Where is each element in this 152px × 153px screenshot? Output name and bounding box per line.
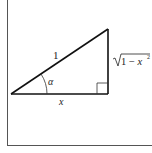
adjacent-label: x bbox=[58, 96, 64, 107]
opposite-exponent: 2 bbox=[147, 54, 150, 60]
opposite-radicand: 1 − x bbox=[121, 56, 142, 67]
triangle-diagram: 1 α x 1 − x 2 bbox=[0, 0, 152, 153]
angle-arc bbox=[41, 74, 47, 94]
angle-label: α bbox=[48, 76, 54, 87]
hypotenuse-label: 1 bbox=[53, 49, 59, 61]
hypotenuse-line bbox=[11, 29, 108, 94]
opposite-label: 1 − x 2 bbox=[113, 54, 150, 67]
right-angle-marker bbox=[97, 83, 108, 94]
